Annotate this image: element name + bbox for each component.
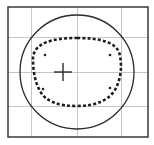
reference-dot: [109, 87, 112, 90]
optical-center-crosshair-icon: [54, 63, 72, 81]
lens-blank-circle: [20, 15, 134, 129]
reference-dot: [42, 88, 45, 91]
reference-dot: [109, 54, 112, 57]
reference-dot: [44, 54, 47, 57]
outer-frame: [8, 7, 148, 137]
frame-shape-dashed-outline: [33, 38, 121, 106]
gridlines: [8, 7, 148, 137]
reference-dots: [42, 54, 112, 91]
lens-tracing-diagram: [0, 0, 154, 145]
